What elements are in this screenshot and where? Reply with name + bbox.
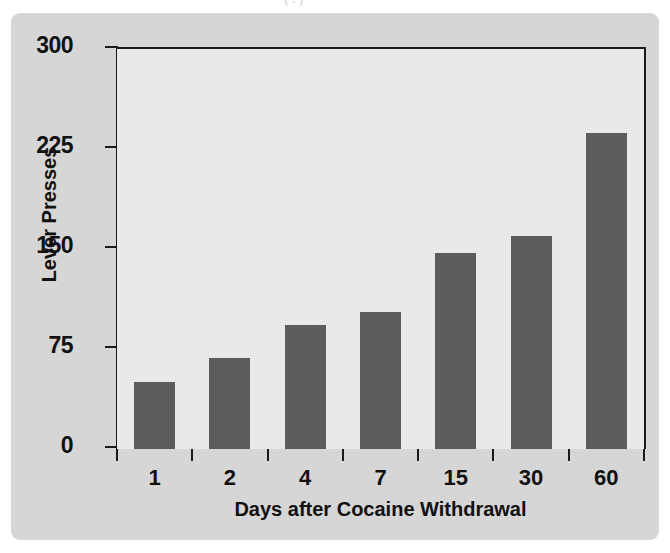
x-axis-tick [568, 449, 570, 461]
plot-area [117, 47, 646, 449]
x-axis-title: Days after Cocaine Withdrawal [117, 498, 644, 521]
x-axis-tick [492, 449, 494, 461]
bar [209, 358, 250, 449]
bars-layer [117, 49, 644, 449]
bar [285, 325, 326, 449]
bar [586, 133, 627, 449]
bar [511, 236, 552, 449]
caption-remnant-text: ( . ) [284, 0, 304, 6]
y-axis-tick-label: 300 [3, 32, 73, 59]
y-axis-tick [105, 446, 117, 448]
bar [134, 382, 175, 449]
figure-card: Lever Presses 075150225300 1247153060 Da… [11, 13, 659, 540]
x-axis-tick [191, 449, 193, 461]
y-axis-tick-label: 225 [3, 132, 73, 159]
y-axis-tick [105, 146, 117, 148]
y-axis-tick [105, 246, 117, 248]
cut-off-caption: ( . ) [0, 0, 670, 13]
bar [435, 253, 476, 449]
x-axis-tick-label: 7 [346, 465, 416, 491]
x-axis-tick-label: 60 [571, 465, 641, 491]
x-axis-tick-label: 15 [421, 465, 491, 491]
x-axis-tick [643, 449, 645, 461]
y-axis-tick [105, 46, 117, 48]
x-axis-tick [342, 449, 344, 461]
x-axis-tick-label: 30 [496, 465, 566, 491]
x-axis-tick [267, 449, 269, 461]
x-axis-tick-label: 4 [270, 465, 340, 491]
x-axis-tick [417, 449, 419, 461]
y-axis-tick-label: 150 [3, 232, 73, 259]
bar [360, 312, 401, 449]
x-axis-tick [116, 449, 118, 461]
y-axis-tick-label: 0 [3, 432, 73, 459]
y-axis-tick-label: 75 [3, 332, 73, 359]
y-axis-tick [105, 346, 117, 348]
x-axis-tick-label: 1 [120, 465, 190, 491]
x-axis-tick-label: 2 [195, 465, 265, 491]
